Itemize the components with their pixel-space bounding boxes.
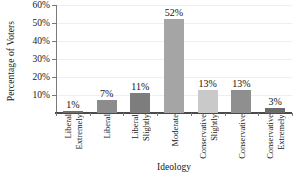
y-tick-mark	[52, 95, 56, 96]
bar-value-label: 13%	[232, 78, 250, 89]
bar: 3%	[265, 108, 285, 113]
y-tick-mark	[52, 23, 56, 24]
bar-chart-figure: Percentage of Voters 10%20%30%40%50%60% …	[0, 0, 295, 179]
x-category-label-line: Extremely	[73, 114, 84, 149]
bar-value-label: 1%	[66, 99, 79, 110]
x-tick-mark	[292, 113, 293, 116]
x-category-label-line: Liberal	[129, 114, 140, 141]
x-category-label: ExtremelyLiberal	[57, 114, 89, 149]
bar-value-label: 3%	[268, 96, 281, 107]
x-category-label: SlightlyConservative	[192, 114, 224, 159]
x-category-label: ExtremelyConservative	[259, 114, 291, 159]
x-category-label-line: Liberal	[101, 114, 112, 139]
gridline	[56, 5, 292, 6]
x-category-label-line: Conservative	[197, 114, 208, 159]
x-category-label-line: Slightly	[208, 114, 219, 159]
bar: 1%	[63, 111, 83, 113]
x-category-label-line: Moderate	[169, 114, 180, 147]
bar: 7%	[97, 100, 117, 113]
y-tick-label: 10%	[33, 90, 50, 100]
x-category-label: Conservative	[225, 114, 257, 159]
bar-value-label: 13%	[199, 78, 217, 89]
x-category-label-line: Liberal	[62, 114, 73, 149]
y-axis-title: Percentage of Voters	[6, 2, 16, 120]
plot-area: 10%20%30%40%50%60% 1%7%11%52%13%13%3%	[56, 5, 292, 113]
bar: 13%	[198, 90, 218, 113]
y-tick-mark	[52, 77, 56, 78]
x-category-label-line: Extremely	[275, 114, 286, 159]
x-axis-title: Ideology	[56, 162, 292, 172]
x-category-label-line: Slightly	[140, 114, 151, 141]
y-tick-mark	[52, 59, 56, 60]
x-category-label: SlightlyLiberal	[124, 114, 156, 141]
x-category-label-line: Conservative	[236, 114, 247, 159]
y-tick-label: 40%	[33, 36, 50, 46]
y-tick-label: 60%	[33, 0, 50, 10]
bar-value-label: 11%	[131, 81, 149, 92]
x-category-label: Liberal	[91, 114, 123, 139]
x-category-label-line: Conservative	[264, 114, 275, 159]
bar: 13%	[231, 90, 251, 113]
bar-value-label: 7%	[100, 88, 113, 99]
y-tick-label: 50%	[33, 18, 50, 28]
bar: 11%	[130, 93, 150, 113]
y-tick-label: 20%	[33, 72, 50, 82]
y-axis-spine	[56, 5, 57, 113]
bar-value-label: 52%	[165, 7, 183, 18]
bar: 52%	[164, 19, 184, 113]
x-category-label: Moderate	[158, 114, 190, 147]
y-tick-label: 30%	[33, 54, 50, 64]
y-tick-mark	[52, 5, 56, 6]
y-tick-mark	[52, 41, 56, 42]
